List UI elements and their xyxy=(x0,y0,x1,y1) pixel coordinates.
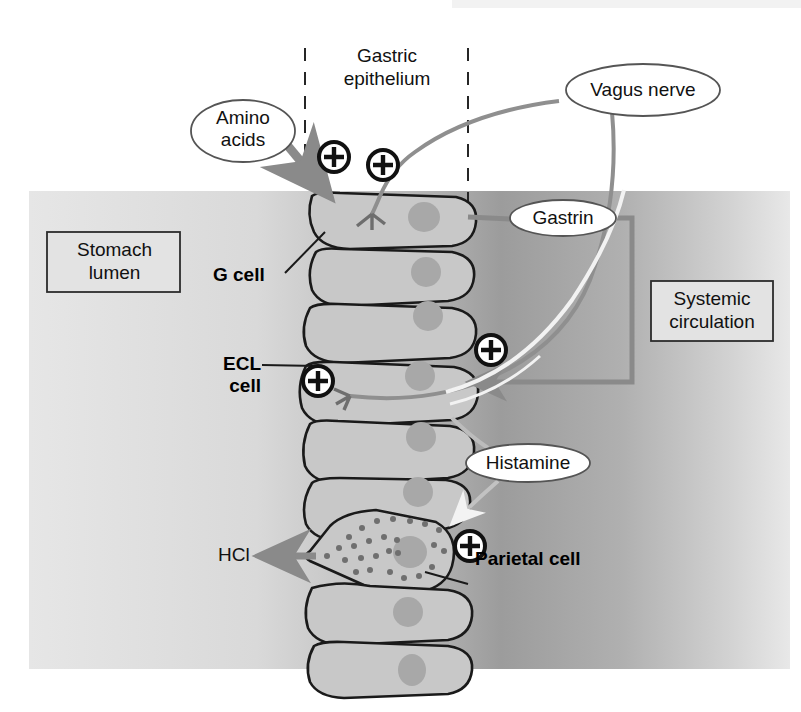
vagus-nerve-label: Vagus nerve xyxy=(568,79,718,101)
diagram-svg xyxy=(0,0,801,712)
ecl-cell-line1: ECL xyxy=(223,353,261,374)
epithelial-cell-2-nucleus xyxy=(411,257,441,287)
systemic-circulation-line1: Systemic xyxy=(673,288,750,309)
stomach-lumen-line2: lumen xyxy=(89,262,141,283)
gastrin-label: Gastrin xyxy=(513,207,613,229)
epithelial-cell-8-nucleus xyxy=(393,597,423,627)
gastric-epithelium-line2: epithelium xyxy=(344,68,431,89)
diagram-canvas: Gastric epithelium Amino acids Vagus ner… xyxy=(0,0,801,712)
systemic-circulation-label: Systemic circulation xyxy=(653,287,771,333)
epithelial-cell-9[interactable] xyxy=(308,642,472,698)
plus-vagus-gcell xyxy=(368,150,398,180)
plus-vagus-ecl xyxy=(303,366,333,396)
epithelial-cell-9-nucleus xyxy=(398,654,426,686)
ecl-cell-line2: cell xyxy=(229,375,261,396)
epithelial-cell-3-nucleus xyxy=(413,301,443,331)
stomach-lumen-line1: Stomach xyxy=(77,239,152,260)
histamine-label: Histamine xyxy=(468,452,588,474)
plus-gastrin-ecl xyxy=(476,335,506,365)
epithelial-cell-6-nucleus xyxy=(403,477,433,507)
gastric-epithelium-line1: Gastric xyxy=(357,45,417,66)
g-cell-nucleus xyxy=(408,202,440,232)
parietal-cell-label: Parietal cell xyxy=(475,548,581,570)
ecl-cell-label: ECL cell xyxy=(211,353,261,397)
epithelial-cell-3[interactable] xyxy=(304,304,476,363)
g-cell-label: G cell xyxy=(213,264,265,286)
epithelial-cell-column xyxy=(300,192,478,698)
epithelial-cell-2[interactable] xyxy=(310,248,474,306)
ecl-cell-nucleus xyxy=(405,361,435,391)
hcl-label: HCl xyxy=(218,543,250,566)
gcell-to-gastrin-connector xyxy=(468,217,510,219)
ecl-cell-leader-line xyxy=(262,365,318,366)
amino-acids-line1: Amino xyxy=(216,107,270,128)
amino-acids-line2: acids xyxy=(221,129,265,150)
systemic-circulation-line2: circulation xyxy=(669,311,755,332)
g-cell[interactable] xyxy=(309,192,476,249)
stomach-lumen-label: Stomach lumen xyxy=(49,238,180,284)
gastric-epithelium-label: Gastric epithelium xyxy=(318,44,456,90)
amino-acids-label: Amino acids xyxy=(193,107,293,151)
epithelial-cell-8[interactable] xyxy=(306,583,472,645)
epithelial-cell-5-nucleus xyxy=(406,422,436,452)
plus-amino-acids xyxy=(319,142,349,172)
epithelial-cell-5[interactable] xyxy=(303,420,474,484)
